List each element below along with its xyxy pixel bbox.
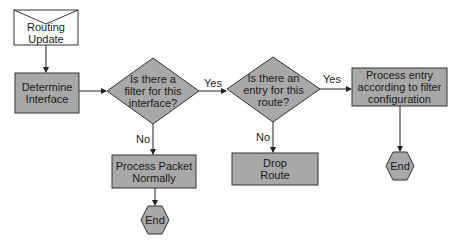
end-left-label: End — [141, 206, 169, 234]
filter-line1: Is there a — [130, 73, 176, 85]
process-entry-line2: according to filter — [358, 81, 442, 93]
drop-line2: Route — [260, 169, 289, 181]
process-entry-label: Process entry according to filter config… — [352, 68, 447, 106]
process-entry-line1: Process entry — [366, 69, 433, 81]
routing-update-line2: Update — [28, 33, 63, 45]
entry-line2: entry for this — [243, 84, 304, 96]
filter-line2: filter for this — [125, 85, 182, 97]
entry-yes-label: Yes — [323, 73, 341, 85]
determine-line1: Determine — [22, 81, 73, 93]
process-packet-line1: Process Packet — [116, 160, 192, 172]
process-entry-line3: configuration — [368, 93, 431, 105]
filter-line3: interface? — [129, 97, 177, 109]
end-right-label: End — [386, 152, 414, 180]
determine-interface-label: Determine Interface — [15, 73, 79, 113]
process-packet-line2: Normally — [132, 172, 175, 184]
drop-line1: Drop — [263, 157, 287, 169]
process-packet-label: Process Packet Normally — [112, 155, 196, 188]
entry-decision-label: Is there an entry for this route? — [227, 57, 320, 122]
entry-line1: Is there an — [248, 72, 300, 84]
filter-no-label: No — [136, 133, 150, 145]
entry-no-label: No — [256, 131, 270, 143]
filter-decision-label: Is there a filter for this interface? — [107, 58, 199, 124]
routing-update-line1: Routing — [27, 21, 65, 33]
routing-update-label: Routing Update — [14, 20, 78, 46]
filter-yes-label: Yes — [204, 77, 222, 89]
drop-route-label: Drop Route — [232, 153, 318, 185]
entry-line3: route? — [258, 96, 289, 108]
determine-line2: Interface — [26, 93, 69, 105]
